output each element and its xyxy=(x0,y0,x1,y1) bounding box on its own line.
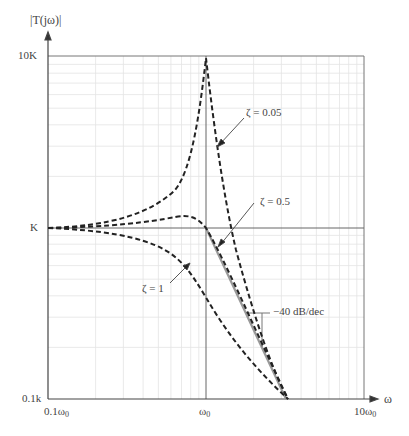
y-tick-01k: 0.1k xyxy=(22,393,41,404)
annotation-zeta-05: ζ = 0.5 xyxy=(260,196,290,207)
annotation-slope: −40 dB/dec xyxy=(273,306,324,317)
y-tick-k: K xyxy=(30,222,38,233)
x-tick-w0: ω0 xyxy=(199,406,210,419)
x-axis-arrow-icon xyxy=(370,396,378,402)
curve-zeta-05 xyxy=(48,216,288,399)
x-tick-10w0: 10ω0 xyxy=(354,406,376,419)
annotation-zeta-1: ζ = 1 xyxy=(142,283,164,294)
bode-plot xyxy=(0,0,409,436)
x-axis-label: ω xyxy=(384,393,392,405)
x-tick-01w0: 0.1ω0 xyxy=(44,406,69,419)
y-axis-label: |T(jω)| xyxy=(30,14,61,26)
y-tick-10k: 10K xyxy=(18,50,37,61)
annotation-zeta-005: ζ = 0.05 xyxy=(246,107,282,118)
y-axis-arrow-icon xyxy=(45,32,51,40)
axes xyxy=(45,32,378,402)
